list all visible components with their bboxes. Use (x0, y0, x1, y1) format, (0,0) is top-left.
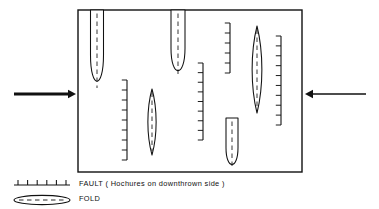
right-compression-arrow-head (305, 90, 313, 98)
fold-symbol (14, 195, 70, 204)
right-compression-arrow (305, 90, 366, 98)
map-box-group (78, 10, 302, 172)
legend-symbols-group (14, 180, 70, 205)
geology-map-figure: FAULT ( Hochures on downthrown side ) FO… (0, 0, 379, 209)
map-box (78, 10, 302, 172)
fold-5 (226, 118, 238, 168)
fault-symbol (14, 180, 70, 185)
legend-fault-label: FAULT ( Hochures on downthrown side ) (79, 179, 225, 188)
left-compression-arrow (14, 90, 76, 98)
fold-2 (171, 10, 185, 76)
legend-fold-label: FOLD (79, 194, 100, 203)
left-compression-arrow-head (68, 90, 76, 98)
